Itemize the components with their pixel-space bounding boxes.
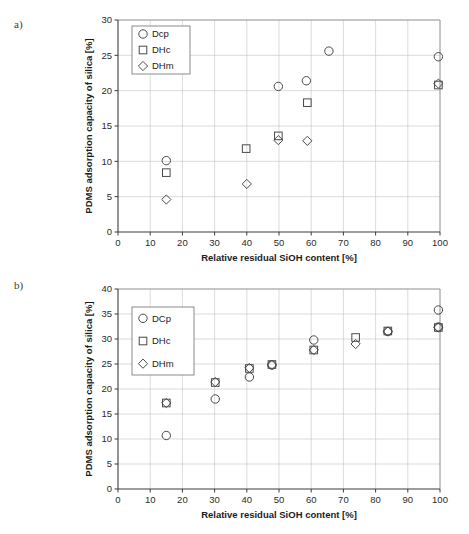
data-point-DCp: [434, 306, 442, 314]
y-tick-label: 30: [101, 333, 112, 344]
data-point-DHm: [351, 339, 360, 348]
x-tick-label: 0: [115, 237, 120, 248]
legend-label-DCp: DCp: [152, 313, 171, 324]
x-tick-label: 40: [242, 494, 253, 505]
y-axis-title: PDMS adsorption capacity of silica [%]: [83, 38, 94, 213]
data-point-Dcp: [302, 77, 310, 85]
y-tick-label: 25: [101, 50, 112, 61]
data-point-DHc: [163, 399, 171, 407]
x-tick-label: 80: [370, 237, 381, 248]
data-point-DHc: [352, 334, 360, 342]
chart-panel-b: b) 0510152025303540010203040506070809010…: [0, 267, 469, 534]
data-point-DHc: [242, 145, 250, 153]
x-tick-label: 0: [115, 494, 120, 505]
legend-label-DHc: DHc: [152, 44, 171, 55]
x-tick-label: 90: [403, 237, 414, 248]
data-point-DCp: [162, 431, 170, 439]
scatter-plot-b: 05101520253035400102030405060708090100Re…: [0, 267, 469, 534]
data-point-Dcp: [325, 47, 333, 55]
x-tick-label: 10: [145, 237, 156, 248]
x-tick-label: 20: [177, 494, 188, 505]
x-tick-label: 100: [432, 237, 448, 248]
y-tick-label: 10: [101, 433, 112, 444]
x-tick-label: 50: [274, 237, 285, 248]
legend-label-Dcp: Dcp: [152, 28, 169, 39]
x-tick-label: 20: [177, 237, 188, 248]
data-point-Dcp: [162, 156, 170, 164]
data-point-DCp: [211, 395, 219, 403]
y-tick-label: 35: [101, 308, 112, 319]
data-point-DCp: [310, 336, 318, 344]
legend-label-DHc: DHc: [152, 335, 171, 346]
data-point-DCp: [245, 373, 253, 381]
y-tick-label: 10: [101, 156, 112, 167]
x-tick-label: 50: [274, 494, 285, 505]
data-point-DHm: [309, 345, 318, 354]
y-tick-label: 25: [101, 358, 112, 369]
y-tick-label: 5: [107, 191, 112, 202]
data-point-DHm: [303, 136, 312, 145]
x-axis-title: Relative residual SiOH content [%]: [201, 252, 357, 263]
y-tick-label: 20: [101, 383, 112, 394]
data-point-DHc: [304, 99, 312, 107]
y-tick-label: 5: [107, 458, 112, 469]
x-tick-label: 80: [370, 494, 381, 505]
x-tick-label: 90: [403, 494, 414, 505]
legend-label-DHm: DHm: [152, 358, 174, 369]
x-tick-label: 40: [242, 237, 253, 248]
data-point-DHc: [163, 169, 171, 177]
x-tick-label: 100: [432, 494, 448, 505]
data-point-DHm: [434, 79, 443, 88]
y-tick-label: 30: [101, 14, 112, 25]
data-point-Dcp: [434, 53, 442, 61]
data-point-DHm: [162, 398, 171, 407]
y-axis-title: PDMS adsorption capacity of silica [%]: [83, 301, 94, 476]
figure-two-panel-scatter: a) 0510152025300102030405060708090100Rel…: [0, 0, 469, 534]
x-tick-label: 30: [209, 237, 220, 248]
x-tick-label: 60: [306, 237, 317, 248]
y-tick-label: 15: [101, 120, 112, 131]
scatter-plot-a: 0510152025300102030405060708090100Relati…: [0, 0, 469, 267]
x-tick-label: 70: [338, 494, 349, 505]
y-tick-label: 0: [107, 226, 112, 237]
x-tick-label: 70: [338, 237, 349, 248]
x-tick-label: 10: [145, 494, 156, 505]
y-tick-label: 15: [101, 408, 112, 419]
y-tick-label: 40: [101, 283, 112, 294]
data-point-DHm: [162, 195, 171, 204]
x-tick-label: 30: [209, 494, 220, 505]
legend-label-DHm: DHm: [152, 60, 174, 71]
chart-panel-a: a) 0510152025300102030405060708090100Rel…: [0, 0, 469, 267]
x-tick-label: 60: [306, 494, 317, 505]
data-point-Dcp: [274, 82, 282, 90]
y-tick-label: 20: [101, 85, 112, 96]
y-tick-label: 0: [107, 483, 112, 494]
x-axis-title: Relative residual SiOH content [%]: [201, 509, 357, 520]
